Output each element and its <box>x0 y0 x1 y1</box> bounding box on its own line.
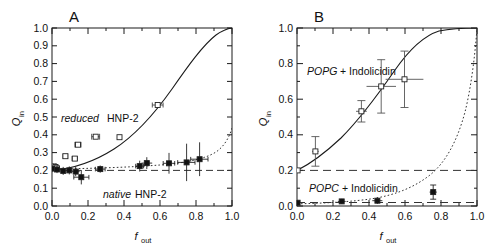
panel-a-curve-reduced <box>52 28 232 170</box>
panel-a-xtick-5: 1.0 <box>225 210 240 222</box>
data-point <box>356 101 367 122</box>
panel-a-xtick-2: 0.4 <box>117 210 132 222</box>
panel-b-xtick-0: 0.0 <box>290 210 305 222</box>
panel-b-x-tick-labels: 0.0 0.2 0.4 0.6 0.8 1.0 <box>290 210 485 222</box>
panel-a-series-native <box>50 142 209 184</box>
data-point <box>136 161 144 172</box>
panel-a-ytick-1: 0.1 <box>33 182 48 194</box>
panel-b-annotation-popg: POPG + Indolicidin <box>307 65 396 77</box>
panel-a-ytick-2: 0.2 <box>33 164 48 176</box>
panel-a: A 0.0 0.1 <box>0 0 249 247</box>
data-point <box>63 154 68 159</box>
panel-b-plot: B 0.0 0.2 0.4 <box>249 0 498 247</box>
data-point <box>75 142 81 148</box>
data-point <box>60 167 66 175</box>
data-point <box>55 166 60 173</box>
panel-b-y-axis-title: Q in <box>257 111 273 126</box>
data-point <box>92 134 100 140</box>
data-point <box>295 200 300 205</box>
panel-b-xtick-3: 0.6 <box>398 210 413 222</box>
panel-a-x-axis-title: f out <box>134 230 152 245</box>
panel-b: B 0.0 0.2 0.4 <box>249 0 498 247</box>
panel-a-xlabel-sub: out <box>141 236 152 245</box>
panel-b-xtick-1: 0.2 <box>326 210 341 222</box>
data-point <box>338 199 346 204</box>
panel-b-ytick-4: 0.8 <box>278 57 293 69</box>
panel-b-xlabel-sub: out <box>386 236 397 245</box>
data-point <box>117 135 122 140</box>
panel-b-ytick-3: 0.6 <box>278 93 293 105</box>
panel-b-annot-popg-roman: + Indolicidin <box>340 65 396 77</box>
panel-a-annot-native-italic: native <box>103 188 131 200</box>
panel-b-ytick-2: 0.4 <box>278 128 293 140</box>
panel-b-xtick-5: 1.0 <box>470 210 485 222</box>
panel-b-annot-popc-roman: + Indolicidin <box>342 182 398 194</box>
panel-a-ytick-3: 0.3 <box>33 146 48 158</box>
panel-a-y-axis-title: Q in <box>10 111 26 126</box>
panel-b-y-tick-labels: 0.0 0.2 0.4 0.6 0.8 1.0 <box>278 22 293 212</box>
data-point <box>178 144 195 181</box>
panel-a-ylabel-main: Q <box>10 117 22 126</box>
panel-b-annotation-popc: POPC + Indolicidin <box>309 182 398 194</box>
data-point <box>191 142 208 176</box>
panel-a-xtick-4: 0.8 <box>189 210 204 222</box>
panel-a-ytick-7: 0.7 <box>33 75 48 87</box>
panel-a-ytick-5: 0.5 <box>33 111 48 123</box>
data-point <box>141 157 152 169</box>
panel-a-ytick-4: 0.4 <box>33 128 48 140</box>
panel-b-ylabel-main: Q <box>257 117 269 126</box>
panel-b-curve-popc <box>297 28 477 204</box>
panel-a-annot-reduced-roman: HNP-2 <box>107 112 139 124</box>
panel-a-ytick-6: 0.6 <box>33 93 48 105</box>
panel-b-xlabel-main: f <box>379 230 383 242</box>
data-point <box>386 51 424 107</box>
data-point <box>66 166 73 174</box>
panel-a-xlabel-main: f <box>134 230 138 242</box>
panel-b-xtick-2: 0.4 <box>362 210 377 222</box>
panel-b-letter: B <box>314 8 324 25</box>
panel-a-xtick-1: 0.2 <box>81 210 96 222</box>
panel-a-xtick-3: 0.6 <box>153 210 168 222</box>
data-point <box>95 166 105 173</box>
panel-a-annotation-reduced: reduced HNP-2 <box>61 112 139 124</box>
panel-a-annot-reduced-italic: reduced <box>61 112 100 124</box>
panel-a-annot-native-roman: HNP-2 <box>135 188 167 200</box>
panel-b-x-axis-title: f out <box>379 230 397 245</box>
data-point <box>72 156 77 161</box>
data-point <box>430 185 437 199</box>
data-point <box>295 168 300 173</box>
panel-a-plot: A 0.0 0.1 <box>0 0 249 247</box>
panel-a-annotation-native: native HNP-2 <box>103 188 167 200</box>
panel-a-y-tick-labels: 0.0 0.1 0.2 0.3 0.4 0.5 0.6 0.7 0.8 0.9 … <box>33 22 48 212</box>
panel-b-annot-popc-italic: POPC <box>309 182 339 194</box>
panel-a-ytick-8: 0.8 <box>33 57 48 69</box>
panel-a-x-tick-labels: 0.0 0.2 0.4 0.6 0.8 1.0 <box>45 210 240 222</box>
data-point <box>50 165 55 172</box>
panel-a-xtick-0: 0.0 <box>45 210 60 222</box>
panel-b-x-ticks <box>297 28 477 206</box>
panel-b-y-ticks <box>297 28 477 206</box>
panel-b-xtick-4: 0.8 <box>434 210 449 222</box>
panel-b-annot-popg-italic: POPG <box>307 65 337 77</box>
figure-two-panel-scatter: A 0.0 0.1 <box>0 0 498 247</box>
panel-b-curve-popg <box>297 28 477 170</box>
panel-a-ytick-9: 0.9 <box>33 39 48 51</box>
panel-b-ytick-5: 1.0 <box>278 22 293 34</box>
panel-a-ylabel-sub: in <box>17 111 26 117</box>
panel-a-letter: A <box>69 8 79 25</box>
panel-b-ylabel-sub: in <box>264 111 273 117</box>
panel-a-ytick-10: 1.0 <box>33 22 48 34</box>
panel-b-axes-frame <box>297 28 477 206</box>
panel-b-ytick-1: 0.2 <box>278 164 293 176</box>
